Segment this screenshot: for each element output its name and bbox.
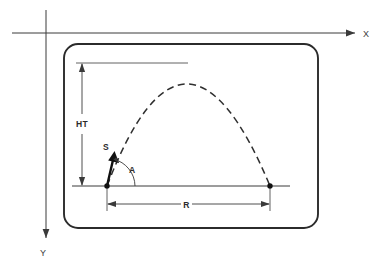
- height-label: HT: [76, 119, 88, 129]
- height-dimension: HT: [76, 63, 88, 186]
- range-label: R: [183, 200, 189, 210]
- y-axis-label: Y: [40, 248, 46, 258]
- diagram-frame: [64, 44, 318, 228]
- velocity-vector-label: S: [103, 142, 109, 152]
- launch-angle: A: [114, 157, 136, 186]
- landing-point-marker: [267, 183, 272, 188]
- x-axis-arrowhead-icon: [346, 30, 355, 37]
- range-dimension: R: [107, 188, 270, 211]
- height-arrowhead-top-icon: [79, 63, 85, 72]
- range-arrowhead-left-icon: [107, 201, 116, 207]
- y-axis-arrowhead-icon: [43, 229, 50, 238]
- diagram-canvas: X Y HT: [0, 0, 389, 268]
- x-axis-label: X: [363, 29, 369, 39]
- launch-angle-label: A: [129, 165, 135, 175]
- height-arrowhead-bottom-icon: [79, 177, 85, 186]
- range-arrowhead-right-icon: [261, 201, 270, 207]
- projectile-diagram: X Y HT: [0, 0, 389, 268]
